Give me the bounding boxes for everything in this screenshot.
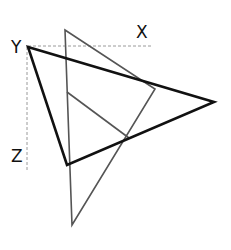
secondary-triangle (65, 30, 155, 225)
primary-triangle (28, 47, 214, 165)
x-axis-label: X (136, 22, 148, 42)
y-axis-label: Y (10, 37, 22, 57)
triangle-axes-diagram: X Y Z (0, 0, 231, 250)
inner-gray-line (67, 92, 129, 138)
z-axis-label: Z (11, 146, 23, 166)
